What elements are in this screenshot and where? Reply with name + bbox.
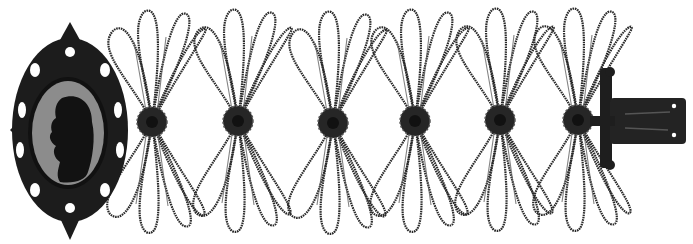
clasp	[590, 67, 686, 170]
mesh-links	[107, 9, 632, 234]
cameo-medallion	[10, 22, 128, 240]
bracelet-photo	[0, 0, 693, 244]
